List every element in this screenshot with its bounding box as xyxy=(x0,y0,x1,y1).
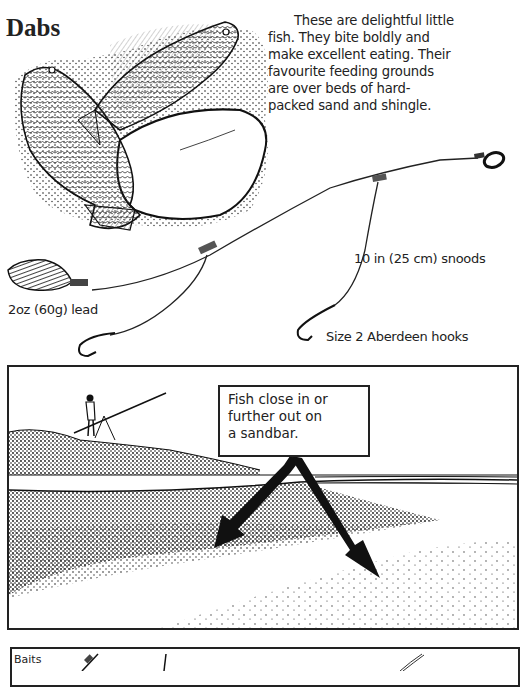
baits-illustration xyxy=(0,0,522,671)
